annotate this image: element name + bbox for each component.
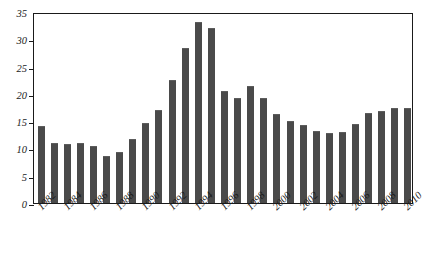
bar-1998 <box>247 86 254 203</box>
y-tick-mark <box>29 69 34 70</box>
y-tick-mark <box>29 123 34 124</box>
bar-1992 <box>169 80 176 203</box>
y-tick-label: 5 <box>22 172 27 183</box>
bar-1996 <box>221 91 228 203</box>
y-tick-label: 10 <box>17 145 28 156</box>
bar-1995 <box>208 28 215 203</box>
bar-1990 <box>142 123 149 203</box>
y-tick-mark <box>29 96 34 97</box>
y-tick-label: 30 <box>17 36 28 47</box>
bar-2010 <box>404 108 411 203</box>
bar-1982 <box>38 126 45 203</box>
y-tick-mark <box>29 150 34 151</box>
plot-area: 05101520253035 <box>33 13 413 204</box>
bar-2009 <box>391 108 398 204</box>
bar-2001 <box>287 121 294 203</box>
bar-2000 <box>273 114 280 203</box>
y-tick-mark <box>29 178 34 179</box>
bar-2004 <box>326 133 333 203</box>
bar-1993 <box>182 48 189 203</box>
y-tick-label: 0 <box>22 200 27 211</box>
bar-chart: 05101520253035 1982198419861988199019921… <box>0 0 430 256</box>
bars-layer <box>34 14 412 203</box>
y-tick-label: 20 <box>17 91 28 102</box>
bar-2007 <box>365 113 372 203</box>
y-tick-label: 25 <box>17 63 28 74</box>
bar-1994 <box>195 22 202 203</box>
y-tick-label: 15 <box>17 118 28 129</box>
x-axis-labels: 1982198419861988199019921994199619982000… <box>33 205 413 256</box>
y-tick-label: 35 <box>17 9 28 20</box>
y-tick-mark <box>29 41 34 42</box>
bar-1997 <box>234 98 241 203</box>
bar-1991 <box>155 110 162 203</box>
bar-2008 <box>378 111 385 203</box>
bar-1999 <box>260 98 267 203</box>
bar-2006 <box>352 124 359 203</box>
bar-2002 <box>300 125 307 203</box>
